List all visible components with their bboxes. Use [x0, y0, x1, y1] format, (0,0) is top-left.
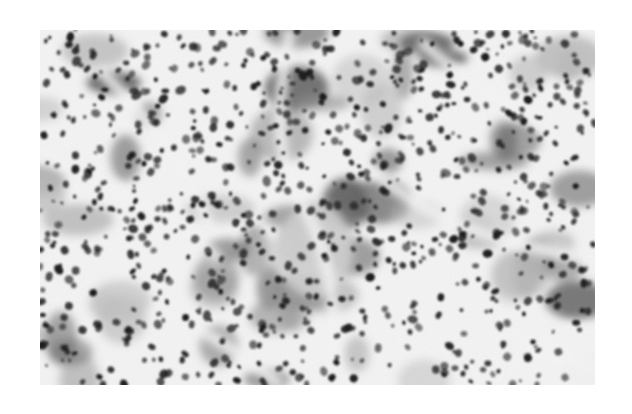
histology-micrograph	[40, 30, 595, 385]
tissue-image	[40, 30, 595, 385]
